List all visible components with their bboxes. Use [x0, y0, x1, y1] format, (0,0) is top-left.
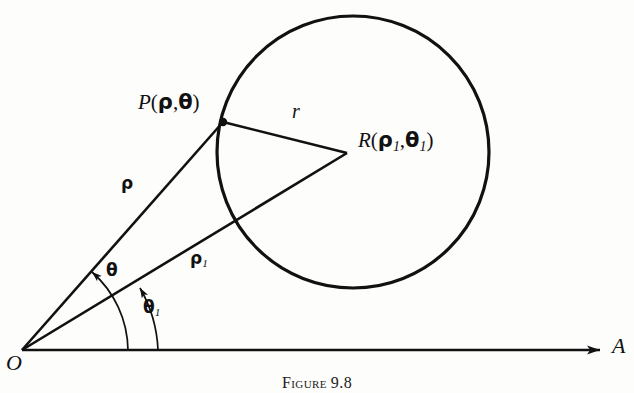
- caption-number: 9.8: [331, 374, 352, 391]
- segment-r: [223, 122, 347, 153]
- circle-shape: [217, 16, 489, 288]
- label-p-theta: θ: [178, 90, 192, 114]
- angle-arc-theta: [92, 272, 128, 350]
- polar-circle-diagram: [0, 0, 634, 393]
- label-p-paren-open: (: [151, 90, 158, 114]
- label-r-name: R: [358, 128, 371, 152]
- label-p-rho: ρ: [158, 90, 173, 114]
- label-angle-theta: θ: [106, 262, 118, 279]
- label-r-paren-close: ): [426, 128, 433, 152]
- label-angle-theta1: θ1: [143, 299, 160, 318]
- label-point-p: P(ρ,θ): [138, 92, 200, 113]
- label-vector-rho1: ρ1: [190, 250, 208, 269]
- point-marker-P: [219, 118, 227, 126]
- figure-page: P(ρ,θ) R(ρ1,θ1) r ρ ρ1 θ θ1 O A Figure9.…: [0, 0, 634, 393]
- label-r-rho-sub: 1: [393, 139, 400, 154]
- label-r-paren-open: (: [371, 128, 378, 152]
- label-rho1-sym: ρ: [190, 248, 202, 268]
- label-theta1-sym: θ: [143, 297, 155, 317]
- caption-word: Figure: [282, 374, 327, 391]
- label-p-paren-close: ): [193, 90, 200, 114]
- label-radius-r: r: [292, 101, 300, 121]
- label-theta1-sub: 1: [155, 306, 161, 318]
- label-vector-rho: ρ: [121, 175, 133, 192]
- label-r-rho: ρ: [378, 128, 393, 152]
- label-p-name: P: [138, 90, 151, 114]
- segment-rho1: [22, 153, 347, 350]
- label-point-r: R(ρ1,θ1): [358, 130, 433, 154]
- label-origin-o: O: [6, 352, 22, 374]
- label-rho1-sub: 1: [202, 257, 208, 269]
- figure-caption: Figure9.8: [0, 374, 634, 392]
- label-r-theta: θ: [405, 128, 419, 152]
- label-axis-a: A: [612, 335, 625, 357]
